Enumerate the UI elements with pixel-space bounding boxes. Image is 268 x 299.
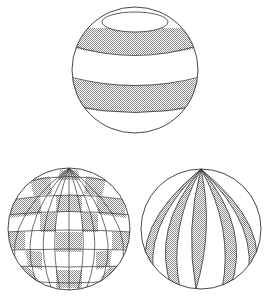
sphere-diagram bbox=[0, 0, 268, 299]
sphere-checkerboard bbox=[6, 168, 132, 290]
sphere-longitude-gores bbox=[141, 169, 261, 289]
sphere-latitude-bands bbox=[60, 7, 210, 133]
